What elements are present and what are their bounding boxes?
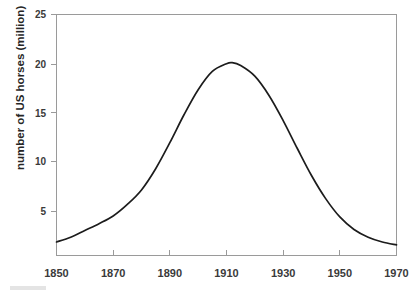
x-tick-label-1950: 1950 — [328, 267, 352, 279]
x-tick-label-1890: 1890 — [158, 267, 182, 279]
x-tick-label-1850: 1850 — [44, 267, 68, 279]
x-tick-label-1970: 1970 — [384, 267, 408, 279]
y-tick-label-5: 5 — [40, 206, 46, 217]
y-tick-label-10: 10 — [35, 156, 47, 167]
chart-background — [0, 0, 420, 293]
scan-artifact — [10, 286, 46, 290]
y-tick-label-15: 15 — [35, 108, 47, 119]
y-axis-title: number of US horses (million) — [14, 6, 26, 170]
x-tick-label-1910: 1910 — [214, 267, 238, 279]
x-tick-label-1870: 1870 — [101, 267, 125, 279]
y-tick-label-25: 25 — [35, 9, 47, 20]
y-tick-label-20: 20 — [35, 59, 47, 70]
horses-line-chart: 25 20 15 10 5 1850 1870 1890 1910 1930 1… — [0, 0, 420, 293]
chart-container: 25 20 15 10 5 1850 1870 1890 1910 1930 1… — [0, 0, 420, 293]
x-tick-label-1930: 1930 — [271, 267, 295, 279]
